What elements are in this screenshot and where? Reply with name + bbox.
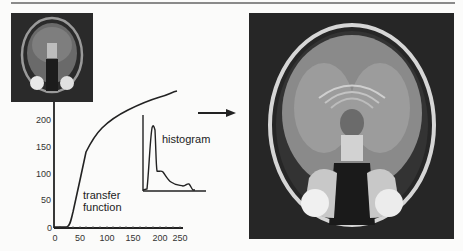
y-tick-100: 100 (36, 169, 51, 179)
x-tick-100: 100 (99, 233, 114, 243)
right-arrow-icon (198, 109, 236, 117)
x-tick-150: 150 (125, 233, 140, 243)
x-tick-250: 250 (172, 233, 187, 243)
y-tick-150: 150 (36, 142, 51, 152)
x-tick-200: 200 (152, 233, 167, 243)
x-tick-50: 50 (75, 233, 85, 243)
y-tick-200: 200 (36, 115, 51, 125)
y-tick-0: 0 (47, 223, 52, 233)
y-tick-50: 50 (41, 195, 51, 205)
histogram-inset (143, 115, 206, 191)
enhanced-mri-image (249, 13, 454, 239)
histogram-label: histogram (162, 133, 210, 145)
x-tick-0: 0 (52, 233, 57, 243)
transfer-function-label-1: transfer (83, 189, 121, 201)
transfer-function-label-2: function (83, 201, 122, 213)
